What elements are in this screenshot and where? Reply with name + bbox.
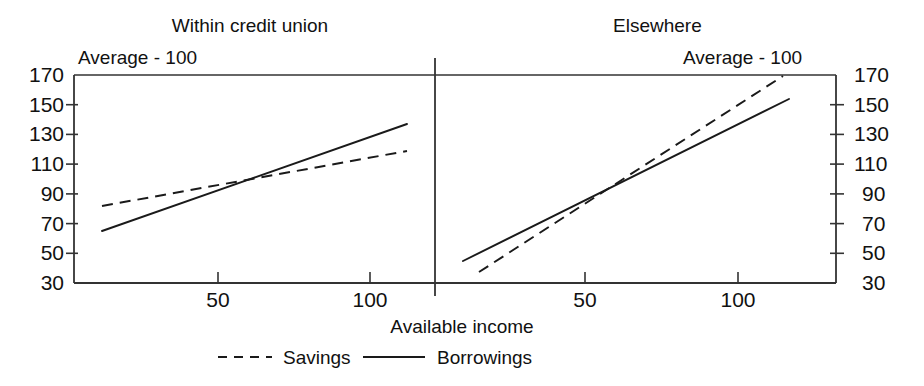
left-y-tick-30: 30 <box>14 272 64 293</box>
left-y-tick-90: 90 <box>14 183 64 204</box>
right-y-tick-130: 130 <box>854 123 910 144</box>
left-y-tick-70: 70 <box>14 213 64 234</box>
right-y-tick-30: 30 <box>862 272 918 293</box>
chart-figure: Within credit union Elsewhere Average - … <box>0 0 924 386</box>
right-y-tick-70: 70 <box>862 213 918 234</box>
right-x-tick-100: 100 <box>704 289 772 310</box>
right-y-tick-50: 50 <box>862 242 918 263</box>
right-panel-title: Elsewhere <box>613 16 702 35</box>
right-y-axis-title: Average - 100 <box>683 48 802 67</box>
left-savings-line <box>102 151 407 206</box>
left-y-axis-title: Average - 100 <box>78 48 197 67</box>
left-y-tick-150: 150 <box>14 94 64 115</box>
left-x-tick-100: 100 <box>336 289 404 310</box>
right-x-tick-50: 50 <box>555 289 615 310</box>
right-borrowings-line <box>463 99 789 261</box>
left-borrowings-line <box>102 124 407 231</box>
right-y-tick-90: 90 <box>862 183 918 204</box>
left-panel-title: Within credit union <box>165 16 335 35</box>
right-savings-line <box>479 76 783 272</box>
left-y-tick-110: 110 <box>14 153 64 174</box>
legend-label-savings: Savings <box>283 348 351 367</box>
right-y-ticks <box>830 105 844 254</box>
right-y-tick-110: 110 <box>854 153 910 174</box>
right-y-tick-150: 150 <box>854 94 910 115</box>
left-x-tick-50: 50 <box>188 289 248 310</box>
legend-label-borrowings: Borrowings <box>437 348 532 367</box>
left-y-tick-50: 50 <box>14 242 64 263</box>
left-y-tick-130: 130 <box>14 123 64 144</box>
left-y-tick-170: 170 <box>14 64 64 85</box>
right-y-tick-170: 170 <box>854 64 910 85</box>
left-y-ticks <box>66 105 78 254</box>
x-axis-label: Available income <box>0 317 924 336</box>
